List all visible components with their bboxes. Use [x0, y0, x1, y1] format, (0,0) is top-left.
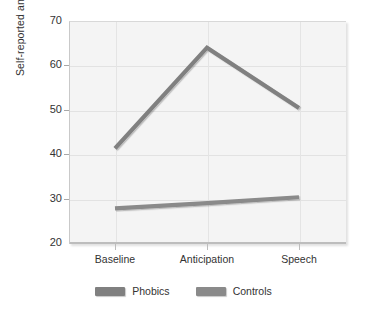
y-tick-label: 50	[28, 103, 62, 115]
legend-swatch-icon	[196, 287, 226, 296]
y-tick-label: 40	[28, 147, 62, 159]
y-tick-label: 70	[28, 14, 62, 26]
legend-label: Phobics	[132, 285, 169, 297]
chart-figure: Self-reported anxiety 203040506070 Basel…	[0, 0, 367, 318]
legend-swatch-icon	[95, 287, 125, 296]
chart-legend: PhobicsControls	[0, 285, 367, 297]
gridline-vertical	[116, 22, 117, 244]
y-tick-mark	[64, 199, 69, 200]
y-tick-label: 30	[28, 192, 62, 204]
x-tick-label: Baseline	[95, 253, 135, 265]
y-tick-label: 20	[28, 236, 62, 248]
plot-area	[69, 21, 346, 244]
x-tick-mark	[115, 244, 116, 250]
x-tick-mark	[299, 244, 300, 250]
y-tick-mark	[64, 154, 69, 155]
x-tick-label: Speech	[281, 253, 317, 265]
y-tick-mark	[64, 65, 69, 66]
x-tick-label: Anticipation	[180, 253, 234, 265]
legend-item-phobics[interactable]: Phobics	[95, 285, 169, 297]
x-tick-mark	[207, 244, 208, 250]
y-tick-label: 60	[28, 58, 62, 70]
y-tick-mark	[64, 110, 69, 111]
legend-label: Controls	[233, 285, 272, 297]
gridline-vertical	[208, 22, 209, 244]
legend-item-controls[interactable]: Controls	[196, 285, 272, 297]
gridline-vertical	[300, 22, 301, 244]
